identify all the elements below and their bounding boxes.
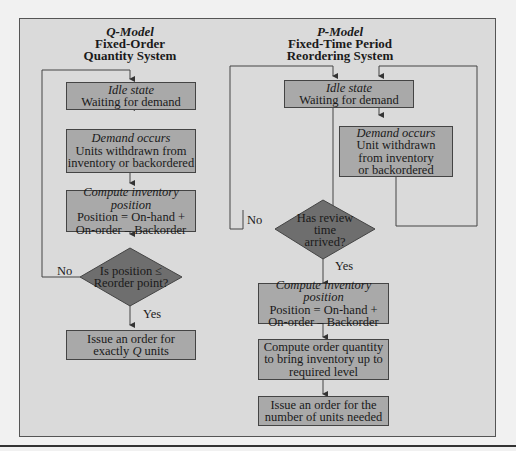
p-decision-line3: arrived?	[305, 236, 346, 248]
q-compute-box: Compute inventory position Position = On…	[66, 190, 196, 232]
q-demand-line2: inventory or backordered	[67, 157, 195, 170]
p-issue-box: Issue an order for the number of units n…	[258, 396, 389, 426]
p-compute-box: Compute inventory position Position = On…	[258, 283, 389, 324]
p-decision-diamond: Has review time arrived?	[275, 200, 375, 259]
q-demand-box: Demand occurs Units withdrawn from inven…	[66, 129, 196, 173]
q-compute-line2: On-order – Backorder	[67, 224, 195, 237]
q-yes-label: Yes	[143, 307, 161, 322]
q-decision-diamond: Is position ≤ Reorder point?	[80, 248, 182, 306]
p-compute-head: Compute inventory position	[259, 279, 388, 304]
p-compute-line2: On-order – Backorder	[259, 316, 388, 329]
p-idle-text: Waiting for demand	[285, 94, 413, 107]
p-order-qty-line2: to bring inventory up to	[259, 353, 388, 366]
q-issue-line2: exactly Q units	[67, 345, 195, 358]
q-model-title: Q-Model Fixed-Order Quantity System	[55, 26, 205, 62]
p-model-title: P-Model Fixed-Time Period Reordering Sys…	[255, 26, 425, 62]
q-idle-text: Waiting for demand	[67, 96, 195, 109]
p-demand-line3: or backordered	[340, 164, 452, 177]
p-idle-box: Idle state Waiting for demand	[284, 80, 414, 108]
q-compute-head: Compute inventory position	[67, 186, 195, 211]
p-decision-line2: time	[314, 224, 336, 236]
q-model-line2: Quantity System	[55, 50, 205, 62]
p-decision-line1: Has review	[297, 212, 354, 224]
q-no-label: No	[57, 264, 72, 279]
p-order-qty-line3: required level	[259, 366, 388, 379]
p-yes-label: Yes	[335, 259, 353, 274]
p-demand-box: Demand occurs Unit withdrawn from invent…	[339, 126, 453, 177]
q-issue-box: Issue an order for exactly Q units	[66, 330, 196, 360]
q-decision-line2: Reorder point?	[94, 277, 169, 289]
p-demand-line1: Unit withdrawn	[340, 139, 452, 152]
p-no-label: No	[247, 213, 262, 228]
q-idle-box: Idle state Waiting for demand	[66, 82, 196, 110]
p-model-line2: Reordering System	[255, 50, 425, 62]
q-demand-head: Demand occurs	[67, 132, 195, 145]
q-compute-line1: Position = On-hand +	[67, 211, 195, 224]
p-issue-line2: number of units needed	[259, 411, 388, 424]
p-order-qty-box: Compute order quantity to bring inventor…	[258, 339, 389, 380]
